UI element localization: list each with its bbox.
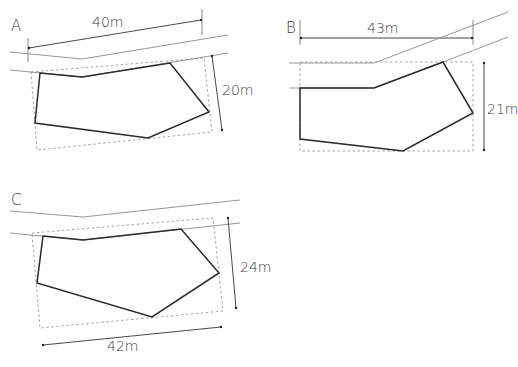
panel-label-a: A	[11, 17, 21, 35]
road-edge-upper	[10, 35, 228, 59]
panel-label-b: B	[286, 19, 296, 37]
panel-a: A 40m 20m	[10, 9, 253, 150]
road-edge-upper	[289, 12, 508, 63]
road-edge-lower	[289, 37, 508, 88]
height-label-c: 24m	[240, 259, 271, 275]
height-label-b: 21m	[487, 101, 518, 117]
panel-c: C 24m 42m	[10, 191, 271, 354]
panel-label-c: C	[11, 191, 21, 209]
bounding-box	[31, 58, 212, 150]
height-dimension-line	[228, 218, 236, 308]
width-label-c: 42m	[107, 338, 138, 354]
width-label-b: 43m	[367, 20, 398, 36]
bounding-box	[300, 62, 473, 151]
panel-b: B 43m 21m	[286, 12, 518, 151]
plot-outline	[37, 229, 219, 317]
plot-outline	[300, 62, 473, 151]
plot-outline	[35, 63, 209, 138]
height-label-a: 20m	[222, 82, 253, 98]
road-edge-lower	[10, 223, 240, 240]
height-dimension-line	[212, 56, 222, 130]
width-label-a: 40m	[92, 14, 123, 30]
site-plan-diagrams: A 40m 20m B 43m 21m C	[0, 0, 518, 367]
road-edge-upper	[10, 200, 240, 217]
